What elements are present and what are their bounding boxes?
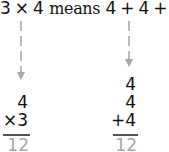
means-word: means: [49, 0, 100, 17]
right-factor: 4: [33, 0, 44, 17]
addend-2: 4: [139, 0, 150, 17]
left-factor: 3: [0, 0, 11, 17]
multiplication-bottom-number: ×3: [2, 112, 28, 129]
multiplication-result: 12: [2, 138, 29, 152]
multiplication-statement: 3×4 means 4+4+4: [0, 0, 169, 20]
multiplication-top-number: 4: [6, 94, 28, 111]
addition-row-2: 4: [114, 94, 136, 111]
left-dashed-arrow-icon: [20, 21, 22, 81]
addition-result: 12: [110, 138, 137, 152]
addition-row-3: +4: [110, 112, 136, 129]
times-sign: ×: [15, 0, 29, 17]
addition-row-1: 4: [114, 76, 136, 93]
addend-1: 4: [105, 0, 116, 17]
plus-sign-2: +: [153, 0, 167, 17]
right-dashed-arrow-icon: [128, 21, 130, 73]
plus-sign-1: +: [120, 0, 134, 17]
